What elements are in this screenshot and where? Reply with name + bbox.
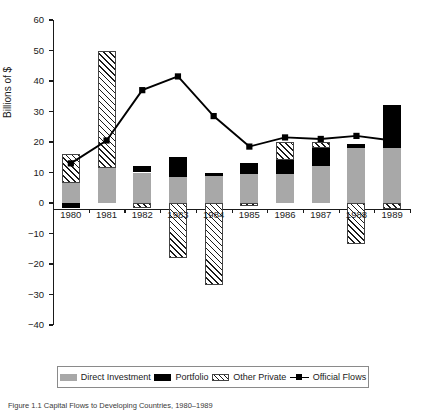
y-tick-label: 20 xyxy=(4,137,44,147)
legend-item-official-flows: Official Flows xyxy=(290,373,366,382)
y-tick-label: −10 xyxy=(4,229,44,239)
y-tick-label: 10 xyxy=(4,168,44,178)
chart-figure: Billions of $ 6050403020100−10−20−30−40 … xyxy=(0,0,425,410)
chart-legend: Direct Investment Portfolio Other Privat… xyxy=(57,366,369,388)
y-tick-label: −20 xyxy=(4,259,44,269)
plot-area: 6050403020100−10−20−30−40 xyxy=(53,20,410,325)
y-tick-label: −40 xyxy=(4,320,44,330)
direct-investment-swatch-icon xyxy=(60,374,77,381)
official-flows-marker xyxy=(103,137,109,143)
official-flows-marker xyxy=(318,136,324,142)
legend-label-direct-investment: Direct Investment xyxy=(81,373,151,382)
y-tick-label: 0 xyxy=(4,198,44,208)
legend-item-other-private: Other Private xyxy=(212,373,286,382)
legend-item-direct-investment: Direct Investment xyxy=(60,373,151,382)
portfolio-swatch-icon xyxy=(154,374,171,381)
official-flows-line xyxy=(53,20,410,325)
official-flows-marker xyxy=(139,87,145,93)
official-flows-marker xyxy=(68,160,74,166)
official-flows-marker xyxy=(246,143,252,149)
official-flows-polyline xyxy=(71,76,392,163)
official-flows-marker xyxy=(211,113,217,119)
y-tick-label: −30 xyxy=(4,290,44,300)
official-flows-marker xyxy=(353,133,359,139)
official-flows-marker xyxy=(175,73,181,79)
y-tick-label: 50 xyxy=(4,46,44,56)
x-tick-label-1989: 1989 xyxy=(367,210,417,220)
y-tick-label: 40 xyxy=(4,76,44,86)
official-flows-marker xyxy=(389,137,395,143)
official-flows-swatch-icon xyxy=(290,374,309,381)
official-flows-marker xyxy=(282,134,288,140)
figure-caption: Figure 1.1 Capital Flows to Developing C… xyxy=(8,401,423,410)
legend-label-official-flows: Official Flows xyxy=(313,373,366,382)
y-tick-label: 30 xyxy=(4,107,44,117)
other-private-swatch-icon xyxy=(212,374,229,381)
legend-label-other-private: Other Private xyxy=(233,373,286,382)
legend-item-portfolio: Portfolio xyxy=(154,373,208,382)
y-tick-label: 60 xyxy=(4,15,44,25)
legend-label-portfolio: Portfolio xyxy=(175,373,208,382)
